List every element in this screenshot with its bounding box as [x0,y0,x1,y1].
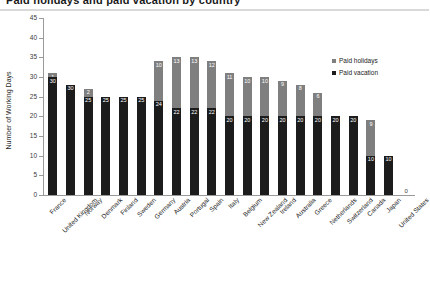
bar-segment-paid-holidays[interactable]: 8 [296,85,305,116]
bar-column[interactable]: 1020 [256,18,274,195]
bar-column[interactable]: 130 [44,18,62,195]
bar-column[interactable]: 920 [274,18,292,195]
bar-value-label: 30 [50,77,56,84]
bar-segment-paid-vacation[interactable]: 20 [349,116,358,195]
bar-segment-paid-holidays[interactable]: 12 [207,61,216,108]
bar-column[interactable]: 25 [97,18,115,195]
y-axis-title-text: Number of Working Days [5,71,12,149]
bar-column[interactable]: 20 [344,18,362,195]
legend-swatch-icon [332,59,336,63]
bar-segment-paid-holidays[interactable]: 10 [260,77,269,116]
stacked-bar[interactable]: 20 [349,116,358,195]
bar-column[interactable]: 820 [291,18,309,195]
x-axis-label-slot: Norway [79,197,97,285]
bar-value-label: 20 [244,116,250,123]
bar-column[interactable]: 0 [397,18,415,195]
y-axis-tick-label: 35 [30,54,37,61]
bar-segment-paid-holidays[interactable]: 9 [278,81,287,116]
legend-label: Paid vacation [339,70,378,77]
bar-column[interactable]: 910 [362,18,380,195]
stacked-bar[interactable]: 30 [66,85,75,195]
bar-value-label: 30 [67,85,73,92]
stacked-bar[interactable]: 1024 [154,61,163,195]
bar-value-label: 20 [333,116,339,123]
bar-segment-paid-holidays[interactable]: 2 [84,89,93,97]
y-axis-tick [39,195,43,196]
y-axis-tick [39,97,43,98]
bar-column[interactable]: 225 [79,18,97,195]
bar-value-label: 13 [191,57,197,64]
bar-segment-paid-vacation[interactable]: 20 [278,116,287,195]
stacked-bar[interactable]: 920 [278,81,287,195]
bar-column[interactable]: 1322 [185,18,203,195]
bar-segment-paid-vacation[interactable]: 22 [190,108,199,195]
y-axis-tick [39,38,43,39]
y-axis-tick-label: 10 [30,153,37,160]
bar-column[interactable]: 1024 [150,18,168,195]
bar-column[interactable]: 1020 [238,18,256,195]
bar-segment-paid-holidays[interactable]: 11 [225,73,234,116]
bar-segment-paid-vacation[interactable]: 20 [313,116,322,195]
bar-column[interactable]: 10 [380,18,398,195]
bar-segment-paid-vacation[interactable]: 20 [331,116,340,195]
bar-segment-paid-vacation[interactable]: 24 [154,101,163,195]
bar-segment-paid-vacation[interactable]: 25 [84,97,93,195]
bar-segment-paid-vacation[interactable]: 30 [66,85,75,195]
bar-column[interactable]: 30 [62,18,80,195]
bar-column[interactable]: 620 [309,18,327,195]
bar-segment-paid-vacation[interactable]: 25 [119,97,128,195]
bar-segment-paid-vacation[interactable]: 20 [243,116,252,195]
stacked-bar[interactable]: 620 [313,93,322,195]
bar-column[interactable]: 25 [115,18,133,195]
bar-value-label: 2 [87,89,90,96]
stacked-bar[interactable]: 1120 [225,73,234,195]
bar-segment-paid-vacation[interactable]: 25 [137,97,146,195]
stacked-bar[interactable]: 910 [366,120,375,195]
bar-segment-paid-vacation[interactable]: 25 [101,97,110,195]
title-divider [0,9,429,11]
bar-segment-paid-holidays[interactable]: 6 [313,93,322,117]
bar-column[interactable]: 25 [132,18,150,195]
stacked-bar[interactable]: 1020 [243,77,252,195]
bar-segment-paid-vacation[interactable]: 22 [172,108,181,195]
stacked-bar[interactable]: 1020 [260,77,269,195]
stacked-bar[interactable]: 130 [48,73,57,195]
bar-column[interactable]: 1120 [221,18,239,195]
x-axis-label-slot: Australia [291,197,309,285]
stacked-bar[interactable]: 25 [119,97,128,195]
bar-value-label: 25 [120,97,126,104]
bar-segment-paid-holidays[interactable]: 9 [366,120,375,155]
stacked-bar[interactable]: 25 [101,97,110,195]
bar-segment-paid-holidays[interactable]: 10 [243,77,252,116]
bar-segment-paid-holidays[interactable]: 10 [154,61,163,100]
bar-segment-paid-vacation[interactable]: 10 [366,156,375,195]
bar-segment-paid-vacation[interactable]: 30 [48,77,57,195]
bar-segment-paid-holidays[interactable]: 13 [172,57,181,108]
y-axis-tick-label: 25 [30,94,37,101]
stacked-bar[interactable]: 25 [137,97,146,195]
stacked-bar[interactable]: 820 [296,85,305,195]
bar-segment-paid-holidays[interactable]: 13 [190,57,199,108]
bar-value-label: 13 [173,57,179,64]
bar-segment-paid-vacation[interactable]: 20 [225,116,234,195]
stacked-bar[interactable]: 1322 [190,57,199,195]
chart-legend: Paid holidays Paid vacation [332,58,378,81]
stacked-bar[interactable]: 225 [84,89,93,195]
bar-segment-paid-vacation[interactable]: 22 [207,108,216,195]
stacked-bar[interactable]: 20 [331,116,340,195]
bar-value-label: 20 [262,116,268,123]
stacked-bar[interactable]: 1322 [172,57,181,195]
bar-value-label: 20 [315,116,321,123]
y-axis-tick [39,175,43,176]
y-axis-tick-label: 30 [30,74,37,81]
bar-column[interactable]: 1322 [168,18,186,195]
bar-segment-paid-vacation[interactable]: 10 [384,156,393,195]
bar-column[interactable]: 20 [327,18,345,195]
stacked-bar[interactable]: 1222 [207,61,216,195]
bar-value-label: 12 [209,61,215,68]
bar-column[interactable]: 1222 [203,18,221,195]
stacked-bar[interactable]: 10 [384,156,393,195]
bar-segment-paid-vacation[interactable]: 20 [296,116,305,195]
bar-segment-paid-vacation[interactable]: 20 [260,116,269,195]
